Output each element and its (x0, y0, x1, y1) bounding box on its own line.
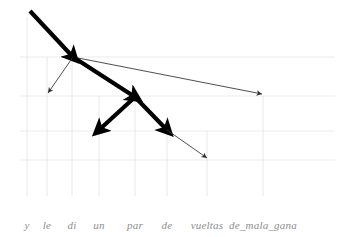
token-label-di: di (68, 219, 77, 231)
token-label-de: de (162, 219, 173, 231)
edge-par-to-un (99, 97, 135, 130)
token-label-vueltas: vueltas (191, 219, 224, 231)
token-label-le: le (43, 219, 51, 231)
horizontal-gridlines (20, 57, 335, 160)
dependency-edges (30, 11, 262, 158)
dependency-diagram: ylediunpardevueltasde_mala_gana (0, 0, 341, 237)
token-label-un: un (93, 219, 104, 231)
edge-y-to-di (30, 11, 73, 57)
edge-par-to-de (135, 97, 167, 130)
edge-de-to-vueltas (167, 130, 207, 158)
token-label-de_mala_gana: de_mala_gana (229, 219, 297, 231)
diagram-canvas (0, 0, 341, 237)
token-label-par: par (127, 219, 143, 231)
edge-di-to-le (48, 57, 73, 93)
token-label-y: y (24, 219, 29, 231)
